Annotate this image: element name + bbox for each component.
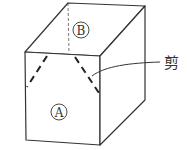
box-diagram: B A 剪 (0, 0, 187, 150)
front-face (25, 52, 100, 145)
hidden-back-edge (68, 3, 69, 53)
cut-annotation: 剪 (164, 54, 179, 72)
label-b: B (77, 24, 86, 38)
label-a: A (54, 106, 64, 120)
right-face (100, 6, 145, 145)
